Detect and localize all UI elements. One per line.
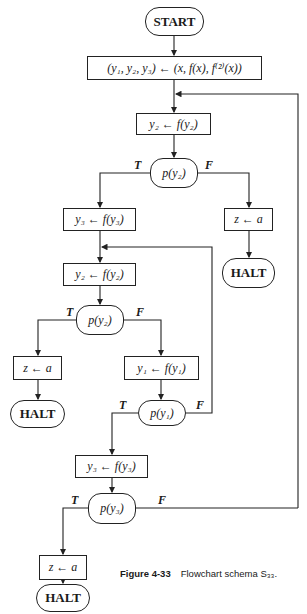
true-label-p-y2-top: T bbox=[134, 158, 141, 173]
figure-caption-text: Flowchart schema S₃₃. bbox=[181, 568, 277, 579]
predicate-p-y2-mid: p(y₂) bbox=[76, 305, 124, 335]
assign-y1-box: y₁ ← f(y₁) bbox=[124, 356, 199, 380]
false-label-p-y1: F bbox=[196, 398, 204, 413]
false-label-p-y2-mid: F bbox=[136, 305, 144, 320]
assign-y3-box-first: y₃ ← f(y₃) bbox=[63, 208, 136, 231]
assign-z-box-bottom: z ← a bbox=[39, 555, 87, 580]
predicate-p-y2-top: p(y₂) bbox=[150, 158, 198, 188]
init-assignment-box: (y₁, y₂, y₃) ← (x, f(x), f⁽²⁾(x)) bbox=[87, 56, 262, 80]
true-label-p-y3: T bbox=[71, 493, 78, 508]
start-node: START bbox=[145, 7, 204, 36]
false-label-p-y2-top: F bbox=[205, 158, 213, 173]
assign-z-box-left: z ← a bbox=[13, 356, 62, 380]
assign-z-box-right: z ← a bbox=[224, 208, 273, 231]
flowchart-connectors bbox=[0, 0, 307, 614]
predicate-p-y3: p(y₃) bbox=[88, 493, 136, 524]
assign-y2-box-mid: y₂ ← f(y₂) bbox=[63, 263, 136, 286]
false-label-p-y3: F bbox=[158, 493, 166, 508]
true-label-p-y2-mid: T bbox=[66, 305, 73, 320]
figure-caption-label: Figure 4-33 bbox=[120, 568, 171, 579]
halt-node-left: HALT bbox=[10, 400, 65, 428]
figure-caption: Figure 4-33Flowchart schema S₃₃. bbox=[120, 568, 277, 579]
halt-node-bottom: HALT bbox=[36, 584, 90, 612]
assign-y2-box-top: y₂ ← f(y₂) bbox=[136, 113, 211, 135]
true-label-p-y1: T bbox=[119, 398, 126, 413]
halt-node-right: HALT bbox=[222, 258, 275, 288]
assign-y3-box-second: y₃ ← f(y₃) bbox=[75, 455, 148, 478]
predicate-p-y1: p(y₁) bbox=[138, 400, 186, 426]
